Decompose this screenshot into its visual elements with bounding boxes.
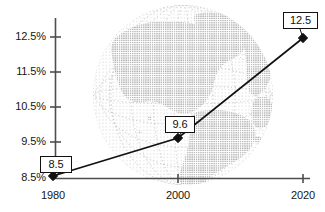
data-label-2000: 9.6	[165, 116, 195, 133]
data-label-2020: 12.5	[283, 12, 318, 29]
data-label-1980: 8.5	[40, 156, 72, 173]
chart-figure: 12.5% 11.5% 10.5% 9.5% 8.5% 1980 2000 20…	[0, 0, 325, 212]
data-label-boxes: 8.5 9.6 12.5	[0, 0, 325, 212]
